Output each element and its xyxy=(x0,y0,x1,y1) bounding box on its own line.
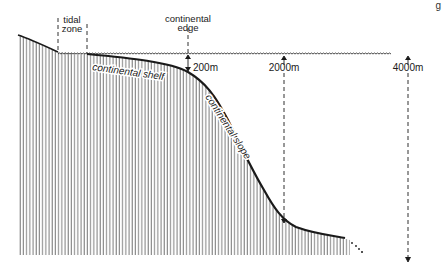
seabed-tail-dots xyxy=(351,242,363,253)
continental-edge-marker xyxy=(186,28,191,71)
depth-4000m-marker xyxy=(406,56,411,262)
depth-label-200m: 200m xyxy=(193,62,218,73)
continental-edge-label-line2: edge xyxy=(177,22,198,33)
depth-label-4000m: 4000m xyxy=(393,62,424,73)
ocean-floor-diagram: tidal zone continental edge 200m 2000m 4… xyxy=(0,0,443,269)
seabed-hatching xyxy=(18,30,353,256)
depth-2000m-marker xyxy=(282,56,287,223)
depth-label-2000m: 2000m xyxy=(269,62,300,73)
sea-surface xyxy=(58,53,391,54)
tidal-zone-label-line2: zone xyxy=(62,23,83,34)
